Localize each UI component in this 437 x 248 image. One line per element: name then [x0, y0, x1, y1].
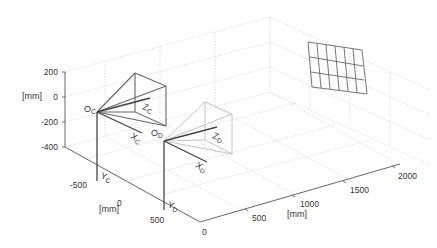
x-tick-500: 500 — [252, 213, 266, 223]
y-tick-500: 500 — [150, 215, 164, 225]
camera-origin-label: OC — [84, 104, 96, 115]
camera-z-label: ZC — [141, 101, 155, 115]
z-axis-label: [mm] — [22, 91, 42, 101]
z-tick-0: 0 — [53, 92, 58, 102]
plot-canvas: 200 0 -200 -400 [mm] -500 0 500 [mm] 0 5… — [0, 0, 437, 248]
camera-labels: OC ZC XC YC — [84, 101, 155, 184]
x-axis-ticks: 0 500 1000 1500 2000 [mm] — [202, 166, 417, 237]
z-tick-neg200: -200 — [41, 117, 58, 127]
grid-lines — [65, 17, 430, 215]
projector-y-label: YD — [166, 199, 180, 213]
figure-3d-plot: 200 0 -200 -400 [mm] -500 0 500 [mm] 0 5… — [0, 0, 437, 248]
x-tick-1500: 1500 — [350, 185, 369, 195]
camera-frustum — [97, 73, 166, 126]
calibration-board — [308, 42, 367, 94]
y-tick-neg500: -500 — [70, 180, 87, 190]
projector-z-label: ZD — [211, 130, 225, 144]
x-tick-1000: 1000 — [300, 199, 319, 209]
x-axis-label: [mm] — [287, 209, 307, 219]
y-axis-ticks: -500 0 500 [mm] — [70, 180, 164, 225]
y-axis-label: [mm] — [99, 204, 119, 214]
z-tick-200: 200 — [44, 67, 58, 77]
x-tick-0: 0 — [202, 227, 207, 237]
x-tick-2000: 2000 — [398, 171, 417, 181]
z-tick-neg400: -400 — [41, 142, 58, 152]
projector-origin-label: OD — [151, 128, 163, 139]
z-axis-ticks: 200 0 -200 -400 [mm] — [22, 67, 65, 152]
